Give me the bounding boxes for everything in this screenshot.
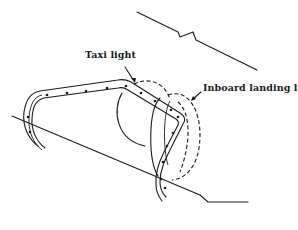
inboard-landing-light-housing-dashed (168, 94, 200, 180)
wing-light-diagram (0, 0, 298, 230)
inboard-landing-light-leader-arrow (191, 92, 201, 101)
taxi-light-label: Taxi light (85, 49, 136, 60)
diagram-canvas: Taxi light Inboard landing light (0, 0, 298, 230)
taxi-light-lens (117, 93, 145, 146)
inboard-landing-light-label: Inboard landing light (203, 82, 298, 93)
wing-upper-edge-break-line (137, 12, 257, 70)
leading-edge-frame-inner (32, 88, 179, 201)
wing-lower-edge-line (12, 116, 248, 202)
